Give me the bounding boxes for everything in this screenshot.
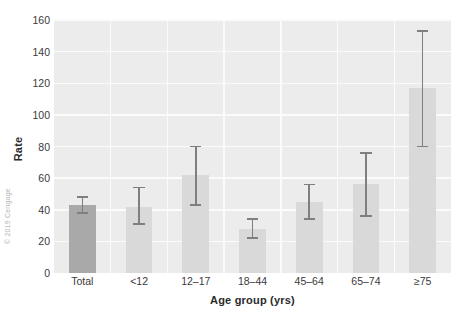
error-bar-cap-lower — [133, 223, 144, 225]
plot-area — [54, 20, 451, 273]
error-bar-cap-lower — [247, 237, 258, 239]
gridline-vertical — [167, 20, 169, 273]
x-axis-tick-label: 12–17 — [181, 276, 210, 287]
error-bar-line — [195, 147, 197, 206]
bar — [69, 205, 96, 273]
error-bar-cap-upper — [304, 184, 315, 186]
error-bar-line — [252, 219, 254, 238]
x-axis-tick-label: 18–44 — [238, 276, 267, 287]
gridline-vertical — [337, 20, 339, 273]
gridline-horizontal — [54, 177, 451, 179]
y-axis-tick-labels: 020406080100120140160 — [12, 0, 50, 315]
error-bar-cap-lower — [190, 204, 201, 206]
error-bar-cap-lower — [360, 215, 371, 217]
gridline-horizontal — [54, 51, 451, 53]
error-bar-cap-upper — [77, 196, 88, 198]
x-axis-tick-label: 65–74 — [351, 276, 380, 287]
y-axis-tick-label: 40 — [20, 205, 50, 216]
y-axis-tick-label: 20 — [20, 236, 50, 247]
error-bar-line — [138, 188, 140, 224]
gridline-horizontal — [54, 114, 451, 116]
x-axis-tick-labels: Total<1212–1718–4445–6465–74≥75 — [54, 276, 451, 292]
gridline-vertical — [394, 20, 396, 273]
gridline-vertical — [280, 20, 282, 273]
y-axis-tick-label: 60 — [20, 173, 50, 184]
y-axis-tick-label: 140 — [20, 46, 50, 57]
error-bar-cap-upper — [190, 146, 201, 148]
error-bar-line — [308, 184, 310, 219]
y-axis-tick-label: 120 — [20, 78, 50, 89]
y-axis-tick-label: 160 — [20, 15, 50, 26]
x-axis-title: Age group (yrs) — [54, 294, 451, 306]
error-bar-line — [422, 31, 424, 146]
x-axis-tick-label: 45–64 — [295, 276, 324, 287]
gridline-horizontal — [54, 146, 451, 148]
x-axis-tick-label: Total — [71, 276, 93, 287]
y-axis-tick-label: 100 — [20, 110, 50, 121]
gridline-vertical — [110, 20, 112, 273]
x-axis-tick-label: ≥75 — [414, 276, 431, 287]
error-bar-cap-upper — [133, 187, 144, 189]
error-bar-line — [82, 197, 84, 213]
gridline-horizontal — [54, 83, 451, 85]
error-bar-cap-lower — [77, 212, 88, 214]
error-bar-cap-upper — [247, 218, 258, 220]
bar-chart-figure: © 2019 Cengage Rate 02040608010012014016… — [0, 0, 465, 315]
gridline-vertical — [223, 20, 225, 273]
error-bar-cap-upper — [417, 30, 428, 32]
x-axis-tick-label: <12 — [130, 276, 148, 287]
error-bar-line — [365, 153, 367, 216]
error-bar-cap-lower — [304, 218, 315, 220]
error-bar-cap-lower — [417, 146, 428, 148]
error-bar-cap-upper — [360, 152, 371, 154]
gridline-horizontal — [54, 19, 451, 21]
y-axis-tick-label: 80 — [20, 141, 50, 152]
gridline-horizontal — [54, 209, 451, 211]
y-axis-tick-label: 0 — [20, 268, 50, 279]
